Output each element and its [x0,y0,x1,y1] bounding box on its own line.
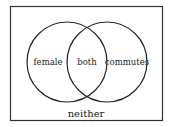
both-label: both [77,57,97,67]
venn-diagram: female both commutes neither [0,0,169,127]
neither-label: neither [68,108,105,119]
commutes-label: commutes [105,57,149,67]
female-label: female [33,57,62,67]
